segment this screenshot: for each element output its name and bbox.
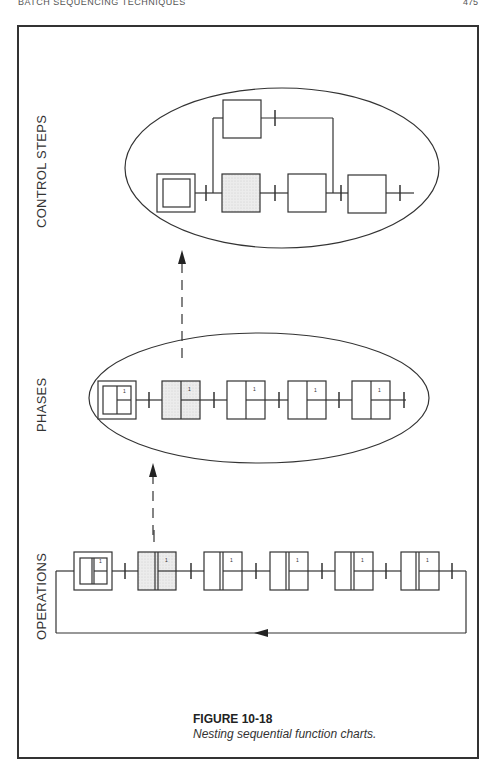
operation-step-4 [270,552,308,590]
svg-text:1: 1 [99,558,102,564]
phase-step-3 [227,381,265,419]
operation-step-3 [204,552,242,590]
operation-initial-step [74,552,112,590]
svg-text:1: 1 [165,557,168,563]
phase-step-5 [352,381,390,419]
svg-text:1: 1 [230,557,233,563]
caption-text: Nesting sequential function charts. [193,727,376,741]
control-step-3 [288,174,326,212]
svg-text:1: 1 [296,557,299,563]
phase-step-4 [288,381,326,419]
marker-1: 1 [123,388,126,394]
control-active-step [222,174,260,212]
svg-text:1: 1 [378,387,381,393]
control-steps-ellipse [125,88,439,248]
operation-step-5 [335,552,373,590]
control-step-4 [348,175,386,213]
control-branch-step [223,100,261,138]
nested-sfc-diagram: 1 1 1 1 1 1 1 1 1 1 1 [0,0,496,773]
svg-text:1: 1 [188,386,191,392]
caption-title: FIGURE 10-18 [193,712,376,726]
phase-active-step [162,381,200,419]
svg-text:1: 1 [426,557,429,563]
control-initial-step [157,174,195,212]
svg-text:1: 1 [361,557,364,563]
operation-step-6 [401,552,439,590]
loop-arrow [254,629,268,637]
figure-caption: FIGURE 10-18 Nesting sequential function… [193,712,376,741]
svg-text:1: 1 [314,387,317,393]
svg-text:1: 1 [253,386,256,392]
phase-initial-step [98,381,136,419]
operation-active-step [138,552,176,590]
